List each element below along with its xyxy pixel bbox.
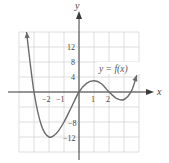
x-tick-label: −2: [42, 95, 51, 104]
y-tick-label: 8: [71, 58, 75, 67]
x-tick-label: 2: [106, 95, 110, 104]
curve-arrow-right-icon: [132, 75, 137, 82]
y-tick-label: 12: [67, 43, 75, 52]
y-tick-label: −12: [63, 134, 76, 143]
y-tick-label: −8: [68, 119, 77, 128]
x-tick-label: 1: [91, 95, 95, 104]
y-tick-label: 4: [71, 73, 75, 82]
function-curve: [27, 32, 137, 137]
function-graph: x y −2 −1 1 2 12 8 4 −8 −12 y = f(x): [0, 0, 169, 163]
y-axis-arrow-icon: [76, 11, 82, 19]
x-axis-label: x: [156, 86, 162, 97]
function-label: y = f(x): [98, 64, 128, 75]
x-tick-label: −1: [56, 95, 65, 104]
y-axis-label: y: [74, 0, 80, 11]
x-axis-arrow-icon: [146, 89, 154, 95]
